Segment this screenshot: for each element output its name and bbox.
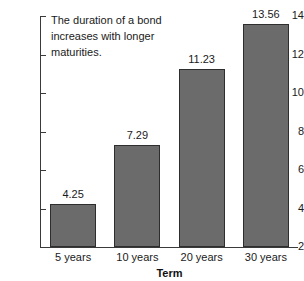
bar-chart-figure: The duration of a bond increases with lo… bbox=[0, 0, 304, 281]
category-label: 10 years bbox=[105, 252, 169, 263]
x-axis-line bbox=[40, 247, 298, 248]
bar bbox=[50, 204, 96, 247]
x-axis-title: Term bbox=[41, 268, 298, 279]
bar-value-label: 13.56 bbox=[233, 9, 299, 20]
bar bbox=[114, 145, 160, 247]
bar bbox=[243, 24, 289, 247]
bar-value-label: 7.29 bbox=[104, 130, 170, 141]
category-label: 20 years bbox=[170, 252, 234, 263]
bar-value-label: 4.25 bbox=[40, 189, 106, 200]
y-tick-mark bbox=[40, 247, 46, 248]
category-label: 5 years bbox=[41, 252, 105, 263]
bar bbox=[179, 69, 225, 247]
bar-value-label: 11.23 bbox=[169, 54, 235, 65]
category-label: 30 years bbox=[234, 252, 298, 263]
